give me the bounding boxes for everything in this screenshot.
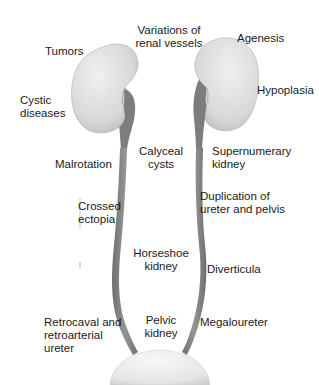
label-hypoplasia: Hypoplasia (257, 84, 314, 97)
label-pelvic-kidney: Pelvic kidney (136, 314, 186, 340)
label-calyceal-cysts: Calyceal cysts (134, 145, 188, 171)
label-cystic-diseases: Cystic diseases (20, 94, 65, 120)
label-duplication-of-ureter-and-pelvis: Duplication of ureter and pelvis (200, 190, 285, 216)
bladder (110, 350, 210, 385)
label-tumors: Tumors (45, 45, 84, 58)
label-malrotation: Malrotation (55, 158, 112, 171)
label-variations-of-renal-vessels: Variations of renal vessels (124, 24, 214, 50)
label-crossed-ectopia: Crossed ectopia (78, 200, 121, 226)
label-agenesis: Agenesis (237, 32, 284, 45)
label-retrocaval-and-retroarterial-ureter: Retrocaval and retroarterial ureter (44, 316, 121, 355)
kidney-anomalies-diagram: Variations of renal vessels Tumors Agene… (0, 0, 319, 385)
label-horseshoe-kidney: Horseshoe kidney (130, 247, 192, 273)
label-supernumerary-kidney: Supernumerary kidney (212, 145, 291, 171)
label-diverticula: Diverticula (207, 263, 261, 276)
label-megaloureter: Megaloureter (200, 316, 268, 329)
